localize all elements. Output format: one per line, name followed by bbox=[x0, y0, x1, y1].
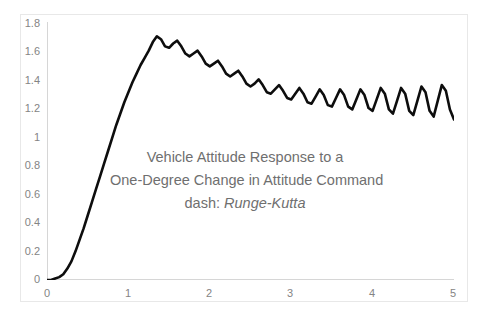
y-tick-label-1: 1 bbox=[10, 132, 40, 143]
annotation-line-2: One-Degree Change in Attitude Command bbox=[110, 169, 380, 192]
y-tick-label-0.4: 0.4 bbox=[10, 217, 40, 228]
y-tick-label-0.2: 0.2 bbox=[10, 246, 40, 257]
y-tick-label-1.4: 1.4 bbox=[10, 75, 40, 86]
annotation-line-3-method: Runge-Kutta bbox=[224, 195, 305, 211]
y-tick-label-1.8: 1.8 bbox=[10, 18, 40, 29]
clipped-top-text bbox=[22, 0, 462, 4]
chart-annotation: Vehicle Attitude Response to a One-Degre… bbox=[110, 146, 380, 215]
y-tick-label-0.8: 0.8 bbox=[10, 160, 40, 171]
x-tick-label-5: 5 bbox=[441, 288, 465, 299]
annotation-line-3-prefix: dash: bbox=[185, 195, 225, 211]
x-tick-label-3: 3 bbox=[278, 288, 302, 299]
y-tick-label-0.6: 0.6 bbox=[10, 189, 40, 200]
x-tick-label-0: 0 bbox=[35, 288, 59, 299]
x-tick-label-2: 2 bbox=[197, 288, 221, 299]
x-tick-label-4: 4 bbox=[360, 288, 384, 299]
chart-container: 1.8 1.6 1.4 1.2 1 0.8 0.6 0.4 0.2 0 0 1 … bbox=[0, 0, 484, 310]
y-tick-label-0: 0 bbox=[10, 274, 40, 285]
annotation-line-1: Vehicle Attitude Response to a bbox=[110, 146, 380, 169]
x-tick-label-1: 1 bbox=[116, 288, 140, 299]
y-tick-label-1.2: 1.2 bbox=[10, 103, 40, 114]
annotation-line-3: dash: Runge-Kutta bbox=[110, 192, 380, 215]
y-tick-label-1.6: 1.6 bbox=[10, 46, 40, 57]
